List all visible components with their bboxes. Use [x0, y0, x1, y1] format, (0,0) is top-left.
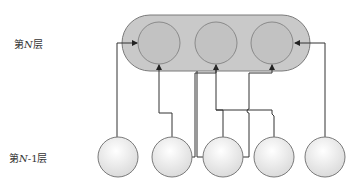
edge-b3-t1 [197, 71, 203, 157]
bottom-node-5 [305, 137, 345, 177]
layer-n-nodes [138, 22, 293, 64]
bottom-node-3 [203, 137, 243, 177]
top-node-3 [251, 22, 293, 64]
edge-b3-t2 [216, 66, 223, 137]
network-diagram [0, 0, 356, 188]
bottom-node-2 [152, 137, 192, 177]
edge-b2-t1 [159, 65, 172, 137]
top-node-1 [138, 22, 180, 64]
edge-b4-t3 [216, 110, 274, 137]
top-node-2 [195, 22, 237, 64]
diagram-canvas: 第N层 第N-1层 [0, 0, 356, 188]
bottom-node-1 [98, 137, 138, 177]
bottom-node-4 [254, 137, 294, 177]
layer-n-minus-1-nodes [98, 137, 345, 177]
